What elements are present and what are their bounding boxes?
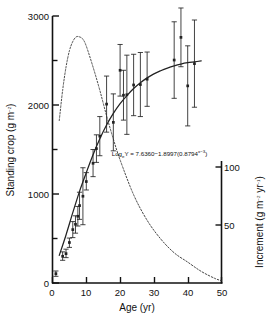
data-point-marker: [119, 69, 122, 72]
data-point-marker: [71, 228, 74, 231]
data-point-marker: [82, 195, 85, 198]
y2-tick-label-100: 100: [224, 162, 240, 173]
data-point-marker: [68, 241, 71, 244]
data-point-marker: [126, 93, 129, 96]
data-point-marker: [77, 215, 80, 218]
y-tick-label-1000: 1000: [28, 189, 49, 200]
y-right-axis-title-mid: yr: [254, 184, 265, 196]
y-left-axis-title-main: Standing crop (g m: [5, 112, 16, 197]
figure-container: 3000 2000 1000 0 0 10 20 30 40 50 100 50…: [0, 0, 274, 318]
eqn-tail: ): [205, 150, 207, 157]
data-point-marker: [61, 255, 64, 258]
y-tick-label-3000: 3000: [28, 11, 49, 22]
x-tick-label-20: 20: [115, 287, 126, 298]
data-point-marker: [105, 103, 108, 106]
data-point-marker: [95, 147, 98, 150]
y-right-axis-title-close: ): [254, 176, 265, 179]
data-point-marker: [92, 162, 95, 165]
data-point-marker: [112, 121, 115, 124]
data-point-marker: [146, 78, 149, 81]
y-left-axis-title: Standing crop (g m−2): [5, 104, 16, 197]
x-axis-title: Age (yr): [119, 302, 155, 313]
y-tick-label-0: 0: [44, 278, 49, 289]
data-point-marker: [85, 180, 88, 183]
x-tick-label-0: 0: [49, 287, 54, 298]
data-point-marker: [78, 204, 81, 207]
x-tick-label-50: 50: [217, 287, 228, 298]
data-point-marker: [132, 84, 135, 87]
data-point-marker: [180, 36, 183, 39]
y2-tick-label-50: 50: [224, 220, 235, 231]
x-tick-label-40: 40: [183, 287, 194, 298]
data-point-marker: [74, 223, 77, 226]
data-point-marker: [122, 94, 125, 97]
y-left-axis-title-close: ): [5, 104, 16, 107]
x-tick-label-10: 10: [81, 287, 92, 298]
data-point-marker: [193, 62, 196, 65]
eqn-body: Y = 7.6360−1.8997(0.8794: [124, 150, 198, 157]
standing-crop-chart: 3000 2000 1000 0 0 10 20 30 40 50 100 50…: [0, 0, 274, 318]
y-right-axis-title-main: Increment (g m: [254, 201, 265, 268]
data-point-marker: [186, 85, 189, 88]
data-point-marker: [65, 252, 68, 255]
data-point-marker: [173, 59, 176, 62]
x-tick-label-30: 30: [149, 287, 160, 298]
data-point-marker: [139, 83, 142, 86]
chart-background: [0, 0, 274, 318]
data-point-marker: [98, 135, 101, 138]
data-point-marker: [55, 272, 58, 275]
eqn-log: Log: [112, 150, 123, 157]
y-tick-label-2000: 2000: [28, 100, 49, 111]
y-right-axis-title: Increment (g m−2 yr−1): [254, 176, 265, 268]
